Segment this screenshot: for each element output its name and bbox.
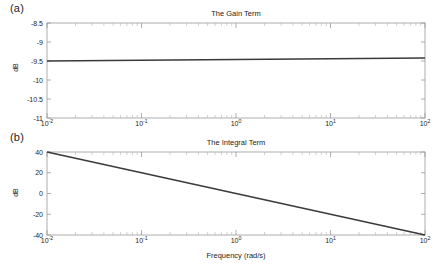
plot-area-integral <box>0 0 442 270</box>
bode-magnitude-figure: (a) The Gain Term dB -8.5 -9 -9.5 -10 -1… <box>0 0 442 270</box>
